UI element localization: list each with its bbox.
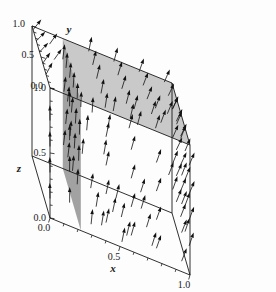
field-arrow-head — [140, 59, 144, 65]
field-arrow-shaft — [50, 38, 55, 45]
field-arrow-head — [57, 49, 61, 54]
field-arrow-shaft — [102, 216, 104, 226]
field-arrow-head — [104, 140, 108, 145]
field-arrow-shaft — [181, 209, 184, 217]
field-arrow-shaft — [91, 214, 92, 224]
field-arrow-shaft — [185, 172, 188, 180]
field-arrow-head — [113, 198, 116, 203]
field-arrow — [86, 115, 90, 131]
field-arrow — [152, 232, 156, 246]
field-arrow-shaft — [156, 183, 159, 191]
x-tick-label: 0.5 — [108, 251, 121, 262]
field-arrow-shaft — [113, 203, 115, 212]
field-arrow-shaft — [87, 120, 88, 130]
field-arrow-shaft — [182, 253, 185, 261]
field-arrow-shaft — [46, 67, 50, 74]
field-arrow-shaft — [156, 211, 159, 219]
field-arrow — [127, 221, 131, 235]
field-arrow-head — [183, 162, 187, 167]
y-axis-label: y — [65, 23, 72, 35]
field-arrow-shaft — [122, 233, 124, 242]
field-arrow — [106, 151, 110, 166]
x-tick-minor — [161, 264, 162, 267]
field-arrow-shaft — [36, 36, 41, 41]
field-arrow-shaft — [176, 194, 179, 202]
field-arrow-head — [190, 233, 193, 239]
slice-planes-layer — [63, 39, 190, 231]
x-tick-minor — [105, 241, 106, 244]
field-arrow — [156, 206, 161, 219]
field-arrow-head — [115, 48, 118, 54]
field-arrow — [122, 228, 126, 242]
field-arrow-head — [183, 152, 187, 158]
field-arrow — [36, 32, 45, 41]
field-arrow — [181, 204, 186, 217]
y-tick-label: 0.5 — [22, 49, 35, 60]
field-arrow-head — [127, 221, 131, 227]
field-arrow-shaft — [82, 144, 83, 154]
field-arrow-shaft — [54, 53, 59, 59]
field-arrow — [156, 178, 161, 191]
field-arrow-head — [48, 63, 52, 68]
field-arrow-head — [132, 222, 135, 227]
z-tick-label: 1.0 — [34, 82, 47, 93]
field-arrow-shaft — [131, 169, 134, 178]
field-arrow — [147, 214, 151, 228]
field-arrow — [131, 164, 135, 178]
x-tick-minor — [63, 224, 64, 227]
field-arrow-shaft — [176, 142, 180, 150]
field-arrow-head — [174, 176, 177, 182]
field-arrow — [173, 176, 178, 189]
field-arrow-shaft — [127, 226, 129, 235]
field-arrow-shaft — [106, 127, 108, 136]
field-arrow-head — [106, 122, 110, 127]
field-arrow-head — [86, 115, 90, 120]
field-arrow-shaft — [181, 157, 185, 165]
field-arrow — [106, 208, 110, 222]
field-arrow-head — [158, 149, 161, 155]
field-arrow-shaft — [173, 155, 176, 163]
field-arrow-head — [81, 138, 85, 143]
field-arrow-head — [108, 114, 111, 119]
field-arrow — [181, 152, 187, 165]
field-arrow — [156, 149, 161, 162]
field-arrow — [131, 136, 135, 150]
bottom-back-edge — [32, 156, 172, 213]
field-arrow-shaft — [185, 197, 188, 205]
field-arrow — [81, 138, 85, 154]
x-tick-minor — [77, 229, 78, 232]
field-arrow — [141, 179, 145, 193]
arrows-layer — [33, 20, 194, 262]
field-arrow-shaft — [106, 156, 108, 165]
field-arrow-head — [158, 178, 161, 184]
field-arrow-shaft — [173, 181, 176, 189]
field-arrow-head — [148, 214, 151, 219]
field-arrow — [173, 151, 178, 164]
plot-canvas: 0.00.51.00.00.51.00.00.51.0 xyz — [0, 0, 276, 292]
z-axis-label: z — [16, 162, 22, 174]
field-arrow-head — [153, 232, 156, 238]
field-arrow-shaft — [156, 240, 159, 248]
horizontal-slice-plane — [63, 39, 190, 146]
field-arrow — [54, 49, 62, 60]
field-arrow-head — [122, 228, 126, 234]
field-arrow-head — [89, 37, 93, 43]
field-arrow — [131, 193, 135, 207]
field-arrow — [176, 163, 182, 176]
field-arrow-head — [191, 207, 195, 212]
field-arrow-head — [174, 151, 178, 157]
field-arrow — [96, 192, 100, 207]
field-arrow-shaft — [131, 198, 134, 207]
field-arrow — [169, 162, 174, 175]
field-arrow-shaft — [152, 237, 155, 246]
field-arrow — [46, 63, 52, 75]
field-arrow — [40, 43, 49, 52]
field-arrow — [182, 162, 187, 175]
z-tick-label: 0.0 — [34, 212, 47, 223]
field-arrow-shaft — [131, 141, 134, 150]
field-arrow-head — [91, 173, 95, 178]
x-axis-label: x — [109, 262, 116, 274]
field-arrow-head — [106, 151, 109, 157]
field-arrow-shaft — [182, 224, 185, 232]
z-tick-label: 0.5 — [34, 147, 47, 158]
